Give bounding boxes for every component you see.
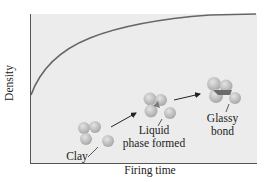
- stage-label-liquid-line1: Liquid: [114, 124, 194, 137]
- diagram-overlay: [0, 0, 267, 182]
- glassy-bond-particles-icon: [207, 77, 241, 104]
- leader-glassy: [226, 104, 229, 112]
- stage-label-liquid-line2: phase formed: [114, 137, 194, 150]
- clay-particles-icon: [78, 121, 114, 147]
- stage-label-glassy-line2: bond: [200, 125, 245, 138]
- arrow-liquid-to-glassy-icon: [174, 94, 200, 100]
- liquid-phase-particles-icon: [144, 93, 177, 120]
- stage-label-glassy-bond: Glassy bond: [200, 112, 245, 138]
- stage-label-liquid-phase: Liquid phase formed: [114, 124, 194, 150]
- y-axis-label: Density: [3, 58, 15, 108]
- stage-label-clay: Clay: [62, 150, 92, 163]
- x-axis-label: Firing time: [110, 164, 190, 176]
- stage-label-glassy-line1: Glassy: [200, 112, 245, 125]
